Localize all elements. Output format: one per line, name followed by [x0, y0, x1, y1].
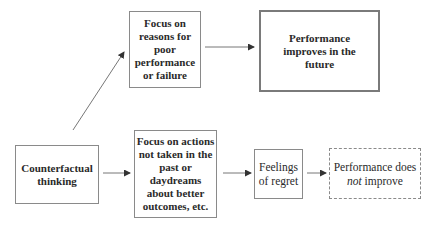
node-focus-actions-line: outcomes, etc.	[137, 200, 215, 213]
node-performance-improves: Performance improves in the future	[259, 10, 380, 92]
emphasis-not: not	[347, 175, 362, 187]
node-focus-actions-line: daydreams	[137, 174, 215, 187]
node-focus-actions-line: about better	[137, 187, 215, 200]
node-focus-reasons-line: reasons for	[135, 30, 195, 43]
node-feelings-of-regret: Feelings of regret	[254, 149, 303, 199]
node-counterfactual-line: Counterfactual	[21, 162, 93, 175]
node-regret-line: of regret	[259, 174, 298, 188]
node-focus-reasons-line: Focus on	[135, 17, 195, 30]
node-improves-line: improves in the	[283, 45, 356, 58]
node-focus-reasons-line: performance	[135, 56, 195, 69]
node-counterfactual-thinking: Counterfactual thinking	[15, 145, 99, 204]
node-improves-line: Performance	[283, 32, 356, 45]
node-performance-not-improve: Performance does not improve	[329, 148, 421, 199]
arrow-counterfactual-to-focus-reasons	[73, 52, 124, 130]
node-focus-actions: Focus on actions not taken in the past o…	[134, 130, 217, 218]
node-improves-line: future	[283, 58, 356, 71]
node-counterfactual-line: thinking	[21, 175, 93, 188]
node-focus-reasons-line: poor	[135, 43, 195, 56]
node-focus-actions-line: not taken in the	[137, 148, 215, 161]
node-not-improve-rest: improve	[362, 175, 403, 187]
node-focus-actions-line: Focus on actions	[137, 135, 215, 148]
node-not-improve-line: Performance does	[334, 160, 417, 174]
node-not-improve-line: not improve	[334, 174, 417, 188]
node-focus-reasons: Focus on reasons for poor performance or…	[129, 11, 201, 88]
node-focus-actions-line: past or	[137, 161, 215, 174]
node-focus-reasons-line: or failure	[135, 69, 195, 82]
node-regret-line: Feelings	[259, 160, 298, 174]
